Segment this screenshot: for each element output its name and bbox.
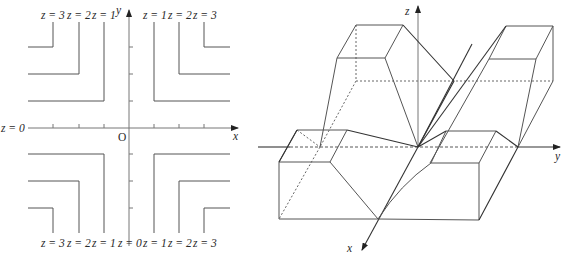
top-label-z2-left: z = 2 — [66, 9, 91, 21]
bottom-label-z3-right: z = 3 — [192, 237, 217, 249]
contours-top-right — [154, 22, 230, 101]
bottom-label-z3-left: z = 3 — [40, 237, 65, 249]
bottom-label-z2-right: z = 2 — [167, 237, 192, 249]
contour-plot: y x O z = 0 z = 3 z = 2 z = 1 z = 1 z = … — [0, 4, 239, 249]
top-label-z3-left: z = 3 — [40, 9, 65, 21]
x-axis-3d-label: x — [346, 242, 353, 254]
ridge-front-left — [279, 130, 297, 162]
edge-front-left-to-origin — [347, 130, 418, 147]
ridge-back-left — [403, 25, 454, 147]
top-label-z1-right: z = 1 — [142, 9, 167, 21]
contours-bottom-left — [28, 154, 104, 233]
z0-left-label: z = 0 — [0, 122, 25, 134]
y-axis-label: y — [115, 4, 122, 17]
y-axis-3d-label: y — [554, 150, 561, 163]
surface-plot: z y x — [258, 5, 561, 254]
bottom-label-z0: z = 0 — [117, 237, 142, 249]
contours-top-left — [28, 22, 104, 101]
figure: y x O z = 0 z = 3 z = 2 z = 1 z = 1 z = … — [0, 0, 567, 256]
ridge-back-right — [418, 26, 506, 147]
back-left-block — [320, 25, 418, 147]
x-axis-label: x — [232, 130, 239, 142]
top-label-z1-left: z = 1 — [91, 9, 116, 21]
bottom-label-z1-right: z = 1 — [142, 237, 167, 249]
front-left-block — [279, 130, 378, 219]
contours-bottom-right — [154, 154, 230, 233]
top-label-z3-right: z = 3 — [192, 9, 217, 21]
top-label-z2-right: z = 2 — [167, 9, 192, 21]
origin-label: O — [118, 131, 126, 143]
hidden-edges — [279, 25, 553, 219]
edge-front-right-outer — [479, 131, 518, 220]
z-axis-3d-label: z — [404, 5, 410, 17]
x-axis-3d — [362, 147, 418, 250]
front-right-block — [378, 131, 496, 220]
bottom-label-z1-left: z = 1 — [91, 237, 116, 249]
bottom-label-z2-left: z = 2 — [66, 237, 91, 249]
